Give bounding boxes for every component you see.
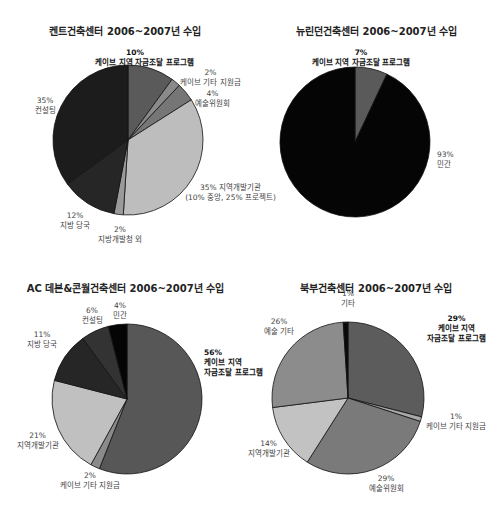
slice-label: 29% 케이브 지역 자금조달 프로그램 <box>419 314 494 344</box>
slice-label: 26% 예술 기타 <box>259 317 299 337</box>
slice-label: 29% 예술위원회 <box>361 474 411 494</box>
pie-slice <box>280 67 430 217</box>
slice-label: 2% 지방개발청 외 <box>90 225 150 245</box>
slice-label: 12% 지방 당국 <box>55 211 95 231</box>
slice-label: 11% 지방 당국 <box>22 330 62 350</box>
slice-label: 1% 기타 <box>333 289 363 309</box>
slice-label: 10% 케이브 지역 자금조달 프로그램 <box>95 48 175 68</box>
slice-label: 21% 지역개발기관 <box>10 431 65 451</box>
panel-kent: 켄트건축센터 2006~2007년 수입 10% 케이브 지역 자금조달 프로그… <box>0 0 251 256</box>
slice-label: 7% 케이브 지역 자금조달 프로그램 <box>311 48 411 68</box>
slice-label: 4% 예술위원회 <box>190 89 235 109</box>
panel-newlyn: 뉴린던건축센터 2006~2007년 수입 7% 케이브 지역 자금조달 프로그… <box>251 0 502 256</box>
slice-label: 2% 케이브 기타 지원금 <box>55 471 125 491</box>
pie-chart-ac <box>0 256 251 512</box>
pie-chart-newlyn <box>251 0 502 256</box>
panel-ac-devon-cornwall: AC 데본&콘월건축센터 2006~2007년 수입 56% 케이브 지역 자금… <box>0 256 251 512</box>
pie-chart-kent <box>0 0 251 256</box>
panel-north: 북부건축센터 2006~2007년 수입 29% 케이브 지역 자금조달 프로그… <box>251 256 502 512</box>
slice-label: 1% 케이브 기타 지원금 <box>421 412 491 432</box>
slice-label: 93% 민간 <box>437 150 477 170</box>
slice-label: 2% 케이브 기타 지원금 <box>178 68 243 88</box>
slice-label: 14% 지역개발기관 <box>241 439 296 459</box>
slice-label: 35% 컨설팅 <box>25 96 65 116</box>
slice-label: 4% 민간 <box>105 301 135 321</box>
